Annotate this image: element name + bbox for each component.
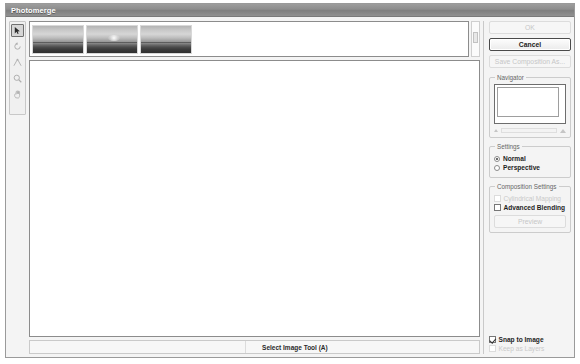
checkbox-advanced-blending-label: Advanced Blending	[504, 204, 566, 211]
radio-normal[interactable]: Normal	[494, 155, 566, 162]
zoom-slider[interactable]	[501, 128, 557, 133]
window-title-bar[interactable]: Photomerge	[6, 4, 574, 17]
save-composition-as-button[interactable]: Save Composition As...	[489, 55, 571, 68]
settings-panel: Settings Normal Perspective	[489, 143, 571, 178]
settings-panel-title: Settings	[495, 143, 522, 150]
navigator-zoom-controls	[494, 128, 566, 133]
hand-tool-icon[interactable]	[11, 88, 24, 101]
list-item[interactable]	[86, 25, 138, 54]
ok-button[interactable]: OK	[489, 21, 571, 34]
navigator-preview[interactable]	[494, 84, 566, 124]
window-title: Photomerge	[11, 6, 56, 15]
composition-settings-title: Composition Settings	[495, 183, 559, 190]
rotate-image-tool-icon[interactable]	[11, 40, 24, 53]
lightbox-row	[29, 21, 480, 57]
vanishing-point-tool-icon[interactable]	[11, 56, 24, 69]
navigator-panel-title: Navigator	[495, 74, 526, 81]
radio-perspective-label: Perspective	[503, 164, 540, 171]
composition-settings-panel: Composition Settings Cylindrical Mapping…	[489, 183, 571, 233]
list-item[interactable]	[32, 25, 84, 54]
composition-work-area[interactable]	[29, 60, 480, 337]
status-bar: Select Image Tool (A)	[29, 340, 480, 354]
checkbox-cylindrical-mapping-label: Cylindrical Mapping	[504, 195, 562, 202]
checkbox-keep-as-layers-label: Keep as Layers	[499, 345, 545, 352]
bottom-options: Snap to Image Keep as Layers	[489, 334, 571, 354]
radio-normal-icon[interactable]	[494, 156, 500, 162]
checkbox-keep-as-layers-icon[interactable]	[489, 345, 496, 352]
checkbox-advanced-blending-icon[interactable]	[494, 204, 501, 211]
preview-button[interactable]: Preview	[494, 215, 566, 228]
tool-palette	[9, 21, 26, 115]
navigator-panel: Navigator	[489, 74, 571, 138]
checkbox-snap-to-image-label: Snap to Image	[499, 336, 544, 343]
status-bar-left-field	[30, 341, 246, 353]
lightbox-source-strip[interactable]	[29, 21, 469, 57]
status-message: Select Image Tool (A)	[246, 344, 479, 351]
radio-perspective[interactable]: Perspective	[494, 164, 566, 171]
checkbox-advanced-blending[interactable]: Advanced Blending	[494, 204, 566, 211]
zoom-in-triangle-icon[interactable]	[560, 129, 566, 133]
radio-perspective-icon[interactable]	[494, 165, 500, 171]
center-column: Select Image Tool (A)	[29, 21, 480, 354]
radio-normal-label: Normal	[503, 155, 526, 162]
navigator-view-box[interactable]	[497, 87, 559, 117]
select-image-tool-icon[interactable]	[11, 24, 24, 37]
lightbox-scrollbar[interactable]	[471, 21, 480, 57]
photomerge-dialog: Photomerge	[5, 3, 575, 358]
list-item[interactable]	[140, 25, 192, 54]
zoom-tool-icon[interactable]	[11, 72, 24, 85]
cancel-button[interactable]: Cancel	[489, 38, 571, 51]
scrollbar-thumb[interactable]	[473, 32, 478, 43]
checkbox-snap-to-image[interactable]: Snap to Image	[489, 336, 571, 343]
zoom-out-triangle-icon[interactable]	[494, 129, 498, 132]
dialog-body: Select Image Tool (A) OK Cancel Save Com…	[6, 17, 574, 357]
right-panel: OK Cancel Save Composition As... Navigat…	[483, 21, 571, 354]
checkbox-cylindrical-mapping[interactable]: Cylindrical Mapping	[494, 195, 566, 202]
checkbox-snap-to-image-icon[interactable]	[489, 336, 496, 343]
checkbox-cylindrical-mapping-icon[interactable]	[494, 195, 501, 202]
checkbox-keep-as-layers[interactable]: Keep as Layers	[489, 345, 571, 352]
